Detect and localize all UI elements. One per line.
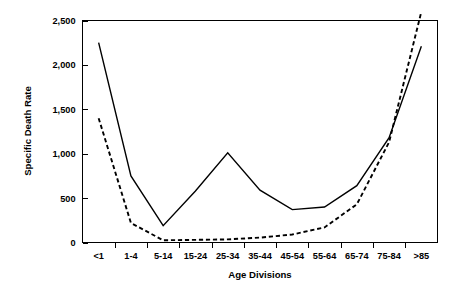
x-axis-tick-labels: <11-45-1415-2425-3435-4445-5455-6465-747… xyxy=(93,251,429,261)
x-tick-label: 75-84 xyxy=(377,251,401,261)
x-tick-label: <1 xyxy=(93,251,103,261)
x-tick-label: 1-4 xyxy=(124,251,138,261)
specific-death-rate-line-chart: 05001,0001,5002,0002,500 <11-45-1415-242… xyxy=(0,0,467,287)
plot-border xyxy=(83,21,438,243)
y-tick-label: 2,000 xyxy=(53,60,76,70)
x-axis-tick-marks xyxy=(116,243,406,248)
series-line-dashed xyxy=(99,12,422,241)
y-tick-label: 1,500 xyxy=(53,105,76,115)
y-axis-tick-labels: 05001,0001,5002,0002,500 xyxy=(53,16,76,248)
series-line-solid xyxy=(99,43,422,226)
x-tick-label: 35-44 xyxy=(248,251,272,261)
data-series-group xyxy=(99,12,422,241)
y-tick-label: 1,000 xyxy=(53,149,76,159)
y-tick-label: 2,500 xyxy=(53,16,76,26)
x-tick-label: 5-14 xyxy=(154,251,173,261)
x-axis-title: Age Divisions xyxy=(228,269,291,280)
plot-frame xyxy=(83,21,438,243)
chart-figure: 05001,0001,5002,0002,500 <11-45-1415-242… xyxy=(0,0,467,287)
y-axis-title: Specific Death Rate xyxy=(22,86,33,176)
y-axis-tick-marks xyxy=(83,22,88,244)
x-tick-label: 15-24 xyxy=(184,251,208,261)
y-tick-label: 500 xyxy=(60,194,75,204)
x-tick-label: 45-54 xyxy=(281,251,305,261)
x-tick-label: 65-74 xyxy=(345,251,369,261)
x-tick-label: 25-34 xyxy=(216,251,240,261)
x-tick-label: 55-64 xyxy=(313,251,337,261)
x-tick-label: >85 xyxy=(414,251,430,261)
y-tick-label: 0 xyxy=(70,238,75,248)
